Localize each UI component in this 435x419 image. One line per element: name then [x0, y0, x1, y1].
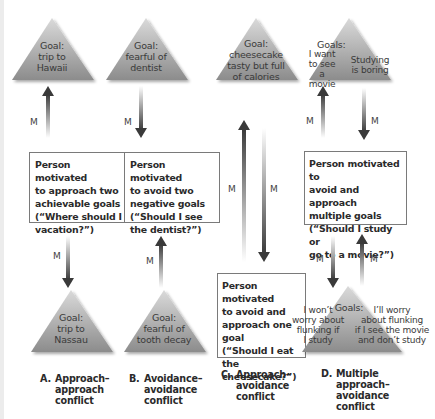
goal-text-approach: I want to see a movie — [305, 49, 339, 89]
arrow-down-icon — [258, 128, 270, 264]
goal-text: Goal: trip to Hawaii — [8, 40, 96, 73]
goal-text: Goal: fearful of tooth decay — [120, 312, 208, 345]
goal-triangle-top-c: Goal: cheesecake tasty but full of calor… — [212, 16, 300, 84]
arrow-down-icon — [358, 88, 370, 140]
conflict-type-label: D. Multiple approach– avoidance conflict — [321, 368, 421, 418]
conflict-description-box: Person motivated to approach two achieva… — [29, 152, 129, 223]
arrow-up-icon — [42, 86, 54, 138]
motivation-label: M — [228, 184, 236, 194]
conflict-type-label: B. Avoidance– avoidance conflict — [129, 373, 219, 413]
conflict-description-box: Person motivated to avoid two negative g… — [124, 152, 220, 223]
conflict-description-box: Person motivated to avoid and approach m… — [304, 151, 407, 225]
goal-text: Goal: fearful of dentist — [102, 40, 190, 73]
arrow-up-icon — [155, 236, 167, 288]
page-edge — [0, 0, 4, 419]
goal-triangle-bottom-b: Goal: fearful of tooth decay — [120, 288, 208, 356]
arrow-down-icon — [135, 86, 147, 138]
motivation-label: M — [270, 184, 278, 194]
arrow-up-icon — [238, 120, 250, 262]
goal-text: Goal: trip to Nassau — [27, 312, 115, 345]
motivation-label: M — [371, 116, 379, 126]
motivation-label: M — [30, 117, 38, 127]
motivation-label: M — [370, 254, 378, 264]
arrow-down-icon — [62, 236, 74, 288]
arrow-down-icon — [327, 236, 339, 288]
arrow-up-icon — [356, 234, 368, 286]
goal-triangle-top-a: Goal: trip to Hawaii — [8, 16, 96, 84]
arrow-up-icon — [317, 86, 329, 138]
goal-text: Goal: cheesecake tasty but full of calor… — [212, 38, 300, 82]
motivation-label: M — [306, 116, 314, 126]
conflict-type-label: C. Approach– avoidance conflict — [221, 369, 311, 409]
motivation-label: M — [316, 254, 324, 264]
goal-text-avoid: Studying is boring — [347, 55, 393, 75]
goal-triangle-bottom-a: Goal: trip to Nassau — [27, 288, 115, 356]
motivation-label: M — [53, 251, 61, 261]
goal-text-avoid: I’ll worry about flunking if I see the m… — [350, 305, 434, 345]
conflict-type-label: A. Approach– approach conflict — [40, 373, 130, 413]
motivation-label: M — [124, 117, 132, 127]
motivation-label: M — [146, 256, 154, 266]
goal-triangle-top-b: Goal: fearful of dentist — [102, 16, 190, 84]
goal-text-approach: I won’t worry about flunking if I study — [290, 305, 346, 345]
